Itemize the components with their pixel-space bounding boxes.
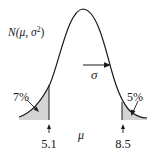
right-cutoff-up-arrow: [121, 124, 125, 133]
label-suffix: ): [40, 26, 44, 39]
right-tail-percent: 5%: [127, 90, 143, 104]
mean-label: μ: [77, 128, 84, 142]
left-cutoff-up-arrow: [47, 124, 51, 133]
left-cutoff-value: 5.1: [41, 137, 57, 151]
distribution-label: N(μ, σ2): [7, 25, 44, 40]
right-cutoff-value: 8.5: [115, 137, 131, 151]
left-tail-percent: 7%: [13, 90, 29, 104]
sigma-label: σ: [91, 67, 98, 82]
normal-distribution-diagram: N(μ, σ2) σ 7% 5% μ 5.1 8.5: [0, 0, 156, 156]
